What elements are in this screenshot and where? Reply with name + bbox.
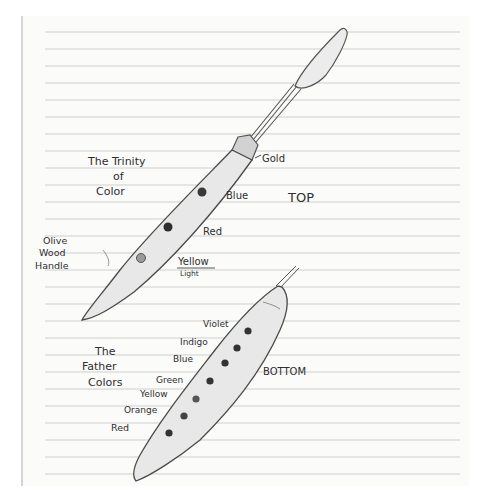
bottom-well-orange-icon [180, 412, 187, 419]
top-knife-shaft-icon [250, 84, 301, 142]
bottom-well-label-indigo: Indigo [180, 337, 208, 347]
handle-pointer-icon [103, 250, 109, 266]
ferrule-label: Gold [262, 153, 285, 164]
bottom-well-green-icon [206, 377, 213, 384]
top-knife-handle-icon [82, 150, 252, 320]
handle-label-line-2: Wood [39, 247, 66, 258]
gold-arrow-icon [255, 155, 261, 158]
bottom-knife-shaft-icon [276, 266, 299, 288]
top-well-label-red: Red [203, 226, 222, 237]
top-well-yellow-icon [137, 254, 146, 263]
handle-label-line-1: Olive [43, 235, 67, 246]
top-well-label-blue: Blue [226, 190, 248, 201]
top-caption: TOP [287, 190, 314, 205]
top-title-line-2: of [113, 170, 125, 183]
bottom-well-label-blue: Blue [173, 354, 193, 364]
bottom-well-blue-icon [221, 359, 228, 366]
top-palette-knife: The Trinity of Color Gold Blue TOP Red Y… [35, 28, 347, 320]
handle-label-line-3: Handle [35, 260, 69, 271]
top-well-red-icon [164, 223, 173, 232]
top-knife-blade-icon [295, 28, 347, 88]
bottom-title-line-2: Father [82, 360, 117, 373]
bottom-well-label-red: Red [111, 422, 129, 433]
bottom-well-label-yellow: Yellow [139, 389, 168, 399]
bottom-well-label-green: Green [156, 375, 183, 385]
top-well-sublabel-light: Light [180, 269, 199, 278]
top-well-blue-icon [198, 188, 207, 197]
bottom-caption: BOTTOM [263, 366, 306, 377]
bottom-well-label-orange: Orange [124, 405, 158, 415]
top-well-label-yellow: Yellow [177, 256, 209, 267]
bottom-well-red-icon [165, 429, 172, 436]
palette-knife-sketch: The Trinity of Color Gold Blue TOP Red Y… [0, 0, 479, 504]
bottom-well-indigo-icon [233, 344, 240, 351]
bottom-title-line-1: The [94, 345, 116, 358]
bottom-well-yellow-icon [192, 395, 199, 402]
ruled-lines [45, 32, 460, 474]
bottom-well-label-violet: Violet [203, 319, 229, 329]
bottom-title-line-3: Colors [88, 376, 123, 389]
top-title-line-1: The Trinity [87, 155, 146, 168]
bottom-well-violet-icon [244, 327, 251, 334]
top-title-line-3: Color [96, 185, 125, 198]
